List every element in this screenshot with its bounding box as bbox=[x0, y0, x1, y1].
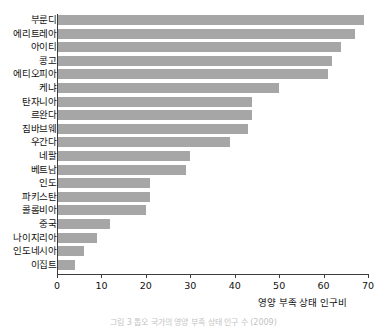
category-label: 우간다 bbox=[0, 136, 57, 148]
bar-row: 나이지리아 bbox=[0, 232, 387, 244]
category-label: 파키스탄 bbox=[0, 191, 57, 203]
category-label: 이집트 bbox=[0, 259, 57, 271]
x-tick-label: 0 bbox=[54, 280, 60, 291]
bar bbox=[57, 260, 75, 270]
category-label: 콩고 bbox=[0, 55, 57, 67]
category-label: 케냐 bbox=[0, 82, 57, 94]
x-tick bbox=[57, 274, 58, 278]
bar-row: 짐바브웨 bbox=[0, 123, 387, 135]
category-label: 베트남 bbox=[0, 164, 57, 176]
bar bbox=[57, 233, 97, 243]
category-label: 인도네시아 bbox=[0, 245, 57, 257]
x-tick bbox=[190, 274, 191, 278]
bar bbox=[57, 165, 186, 175]
bar bbox=[57, 192, 150, 202]
bar-row: 인도 bbox=[0, 177, 387, 189]
bar bbox=[57, 42, 341, 52]
bar bbox=[57, 110, 252, 120]
bar bbox=[57, 15, 364, 25]
category-label: 콜롬비아 bbox=[0, 204, 57, 216]
category-label: 중국 bbox=[0, 218, 57, 230]
bar-row: 우간다 bbox=[0, 136, 387, 148]
x-tick-label: 70 bbox=[362, 280, 374, 291]
bar-row: 네팔 bbox=[0, 150, 387, 162]
x-tick-label: 10 bbox=[95, 280, 107, 291]
bar bbox=[57, 137, 230, 147]
bar-row: 에리트레아 bbox=[0, 28, 387, 40]
x-tick-label: 40 bbox=[229, 280, 241, 291]
category-label: 부룬디 bbox=[0, 14, 57, 26]
category-label: 나이지리아 bbox=[0, 232, 57, 244]
bar bbox=[57, 97, 252, 107]
category-label: 에티오피아 bbox=[0, 68, 57, 80]
bar-row: 케냐 bbox=[0, 82, 387, 94]
x-tick-label: 30 bbox=[184, 280, 196, 291]
x-tick bbox=[279, 274, 280, 278]
x-tick-label: 50 bbox=[273, 280, 285, 291]
bar bbox=[57, 151, 190, 161]
x-tick-label: 60 bbox=[318, 280, 330, 291]
y-axis-line bbox=[57, 14, 58, 274]
bar-row: 인도네시아 bbox=[0, 245, 387, 257]
x-tick bbox=[368, 274, 369, 278]
x-axis-title: 영양 부족 상태 인구비 bbox=[258, 295, 347, 309]
bar-row: 에티오피아 bbox=[0, 68, 387, 80]
category-label: 인도 bbox=[0, 177, 57, 189]
category-label: 탄자니아 bbox=[0, 96, 57, 108]
category-label: 짐바브웨 bbox=[0, 123, 57, 135]
bar bbox=[57, 29, 355, 39]
category-label: 에리트레아 bbox=[0, 28, 57, 40]
bar bbox=[57, 69, 328, 79]
x-tick bbox=[235, 274, 236, 278]
category-label: 아이티 bbox=[0, 41, 57, 53]
bar bbox=[57, 124, 248, 134]
bar-row: 아이티 bbox=[0, 41, 387, 53]
bar bbox=[57, 246, 84, 256]
x-axis-line bbox=[57, 274, 368, 275]
bar bbox=[57, 205, 146, 215]
category-label: 르완다 bbox=[0, 109, 57, 121]
bar-row: 베트남 bbox=[0, 164, 387, 176]
bar bbox=[57, 178, 150, 188]
x-tick bbox=[324, 274, 325, 278]
bar-row: 르완다 bbox=[0, 109, 387, 121]
bar bbox=[57, 56, 332, 66]
bar-row: 콜롬비아 bbox=[0, 204, 387, 216]
bar-row: 콩고 bbox=[0, 55, 387, 67]
x-tick bbox=[146, 274, 147, 278]
category-label: 네팔 bbox=[0, 150, 57, 162]
bar-row: 파키스탄 bbox=[0, 191, 387, 203]
bar bbox=[57, 83, 279, 93]
figure-caption: 그림 3 톱오 국가의 영양 부족 상태 인구 수 (2009) bbox=[0, 316, 387, 327]
bar-row: 중국 bbox=[0, 218, 387, 230]
bar-row: 탄자니아 bbox=[0, 96, 387, 108]
x-tick bbox=[101, 274, 102, 278]
bar-row: 부룬디 bbox=[0, 14, 387, 26]
bar-row: 이집트 bbox=[0, 259, 387, 271]
x-tick-label: 20 bbox=[140, 280, 152, 291]
bar bbox=[57, 219, 110, 229]
